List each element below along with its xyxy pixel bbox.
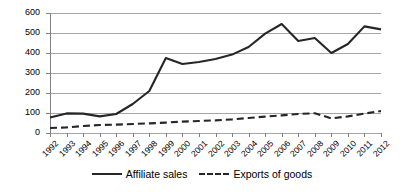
legend-dashed-line-swatch <box>199 173 229 175</box>
y-tick-label: 300 <box>14 68 40 77</box>
series-line-affiliate-sales <box>50 24 381 117</box>
y-tick-label: 400 <box>14 48 40 57</box>
legend-label-exports-of-goods: Exports of goods <box>233 168 312 180</box>
y-tick-label: 500 <box>14 28 40 37</box>
y-tick-label: 0 <box>14 128 40 137</box>
chart-legend: Affiliate sales Exports of goods <box>0 168 404 180</box>
legend-item-exports-of-goods: Exports of goods <box>199 168 312 180</box>
legend-solid-line-swatch <box>92 173 122 175</box>
y-tick-label: 200 <box>14 88 40 97</box>
y-tick-label: 100 <box>14 108 40 117</box>
chart-plot-area <box>0 0 404 195</box>
line-chart: 0100200300400500600 19921993199419951996… <box>0 0 404 195</box>
legend-item-affiliate-sales: Affiliate sales <box>92 168 188 180</box>
legend-label-affiliate-sales: Affiliate sales <box>126 168 188 180</box>
y-tick-label: 600 <box>14 8 40 17</box>
